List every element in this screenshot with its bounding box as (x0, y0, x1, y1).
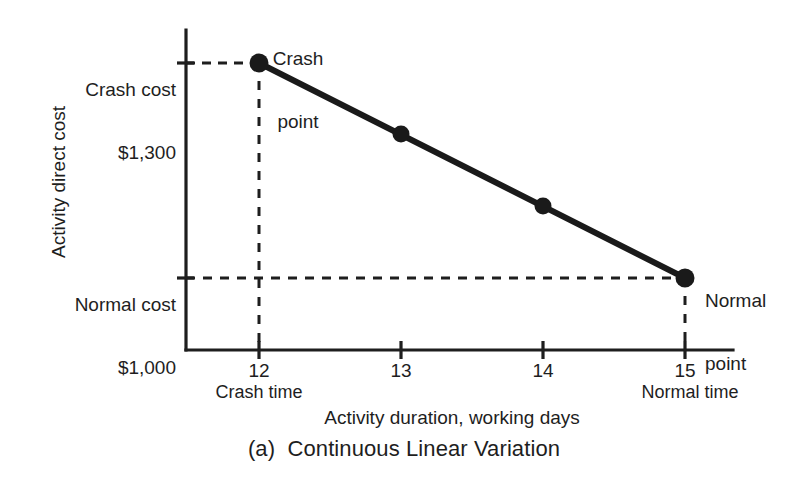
data-point-normal (676, 269, 695, 288)
figure-container: Activity direct cost Crash cost $1,300 N… (0, 0, 801, 479)
annotation-crash-point-line2: point (238, 111, 358, 132)
y-label-crash-cost-line2: $1,300 (0, 142, 176, 163)
x-sub-label-crash-time: Crash time (184, 382, 334, 402)
data-point-14 (535, 198, 552, 215)
annotation-crash-point-line1: Crash (238, 48, 358, 69)
x-sub-label-normal-time: Normal time (615, 382, 765, 402)
x-axis-title: Activity duration, working days (242, 407, 662, 428)
data-point-13 (393, 126, 410, 143)
x-tick-label-12: 12 (229, 360, 289, 381)
annotation-crash-point: Crash point (238, 5, 358, 175)
x-tick-label-14: 14 (513, 360, 573, 381)
y-label-crash-cost: Crash cost $1,300 (0, 36, 176, 206)
y-label-normal-cost-line1: Normal cost (0, 294, 176, 315)
figure-caption: (a) Continuous Linear Variation (124, 437, 684, 462)
x-tick-label-15: 15 (655, 360, 715, 381)
y-label-normal-cost: Normal cost $1,000 (0, 251, 176, 421)
y-label-normal-cost-line2: $1,000 (0, 357, 176, 378)
y-label-crash-cost-line1: Crash cost (0, 79, 176, 100)
annotation-normal-point-line1: Normal (705, 290, 801, 311)
x-tick-label-13: 13 (371, 360, 431, 381)
annotation-normal-point-line2: point (705, 353, 801, 374)
